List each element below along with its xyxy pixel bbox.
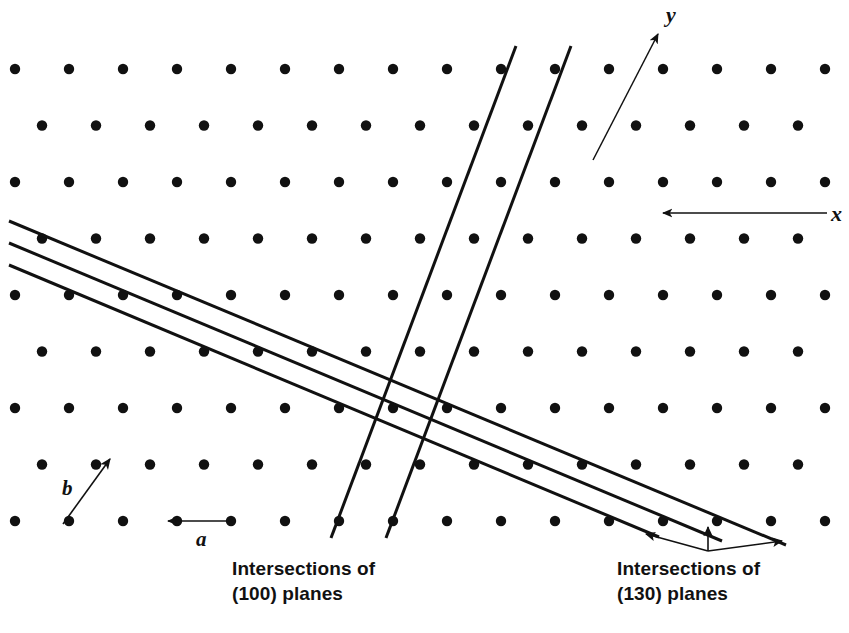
lattice-point (793, 233, 803, 243)
lattice-point (820, 290, 830, 300)
lattice-point (10, 403, 20, 413)
lattice-point (820, 403, 830, 413)
lattice-point (253, 120, 263, 130)
lattice-point (604, 403, 614, 413)
lattice-point (712, 403, 722, 413)
lattice-point (10, 290, 20, 300)
lattice-point (280, 64, 290, 74)
lattice-point (766, 403, 776, 413)
lattice-point (604, 64, 614, 74)
lattice-point (658, 403, 668, 413)
lattice-point (280, 177, 290, 187)
lattice-point (145, 346, 155, 356)
lattice-point (91, 459, 101, 469)
lattice-point (442, 177, 452, 187)
caption-pointer-arrow (708, 541, 782, 551)
lattice-point (712, 290, 722, 300)
lattice-point (523, 346, 533, 356)
lattice-point (739, 233, 749, 243)
lattice-point (442, 516, 452, 526)
lattice-point (631, 459, 641, 469)
b-vector-label: b (62, 476, 73, 501)
lattice-point (523, 233, 533, 243)
lattice-point (658, 64, 668, 74)
lattice-point (172, 177, 182, 187)
lattice-point (307, 459, 317, 469)
lattice-point (199, 233, 209, 243)
lattice-point (685, 346, 695, 356)
lattice-point (253, 459, 263, 469)
lattice-point (469, 346, 479, 356)
lattice-point (334, 290, 344, 300)
lattice-point (388, 177, 398, 187)
lattice-point (415, 120, 425, 130)
lattice-point (37, 346, 47, 356)
lattice-point (199, 459, 209, 469)
plane-130-lines (9, 221, 786, 545)
x-axis-label: x (831, 201, 842, 227)
lattice-point (442, 64, 452, 74)
lattice-point (91, 233, 101, 243)
lattice-point (307, 233, 317, 243)
lattice-point (253, 233, 263, 243)
lattice-point (10, 177, 20, 187)
lattice-point (793, 120, 803, 130)
lattice-point (604, 177, 614, 187)
lattice-plane-figure: Intersections of (100) planes Intersecti… (0, 0, 849, 633)
lattice-point (172, 64, 182, 74)
lattice-point (766, 290, 776, 300)
lattice-point (658, 290, 668, 300)
lattice-point (442, 290, 452, 300)
lattice-point (91, 346, 101, 356)
lattice-point (550, 290, 560, 300)
lattice-point (118, 403, 128, 413)
lattice-point (37, 459, 47, 469)
lattice-point (820, 177, 830, 187)
lattice-point (388, 64, 398, 74)
lattice-point (685, 233, 695, 243)
lattice-point (388, 290, 398, 300)
lattice-point (739, 346, 749, 356)
lattice-point (415, 346, 425, 356)
lattice-point (496, 403, 506, 413)
lattice-point (118, 64, 128, 74)
lattice-point (280, 290, 290, 300)
lattice-point (469, 233, 479, 243)
lattice-point (523, 120, 533, 130)
lattice-point (631, 120, 641, 130)
lattice-point (10, 516, 20, 526)
lattice-point (793, 459, 803, 469)
plane-130-line (9, 221, 786, 545)
lattice-point (820, 64, 830, 74)
axis-arrow-group (593, 34, 827, 213)
lattice-point (496, 290, 506, 300)
lattice-point (10, 64, 20, 74)
lattice-point (577, 233, 587, 243)
lattice-point (361, 459, 371, 469)
lattice-point (37, 120, 47, 130)
lattice-point (685, 459, 695, 469)
lattice-point (550, 403, 560, 413)
lattice-point (550, 177, 560, 187)
lattice-point (118, 177, 128, 187)
lattice-point (145, 120, 155, 130)
lattice-point (739, 459, 749, 469)
lattice-point (118, 516, 128, 526)
lattice-point (550, 64, 560, 74)
caption-130-planes: Intersections of (130) planes (617, 556, 760, 606)
lattice-point (469, 120, 479, 130)
lattice-point (280, 516, 290, 526)
lattice-point (820, 516, 830, 526)
lattice-point (280, 403, 290, 413)
lattice-point (361, 120, 371, 130)
lattice-point (64, 177, 74, 187)
lattice-point (199, 120, 209, 130)
lattice-point (766, 64, 776, 74)
y-axis-arrow (593, 34, 658, 160)
lattice-point (307, 120, 317, 130)
lattice-point (739, 120, 749, 130)
lattice-point (226, 403, 236, 413)
lattice-point (577, 346, 587, 356)
lattice-point (631, 346, 641, 356)
lattice-point (793, 346, 803, 356)
